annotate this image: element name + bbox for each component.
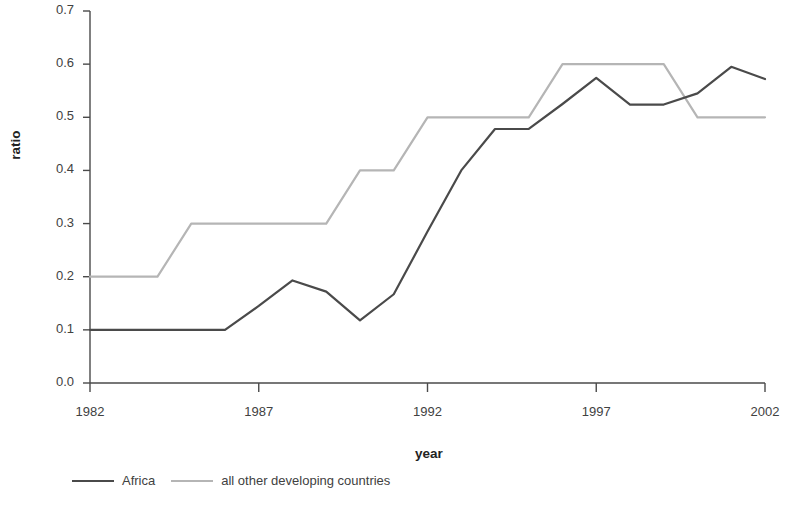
y-axis-tick-label: 0.7 <box>18 2 74 17</box>
y-axis-tick-label: 0.5 <box>18 108 74 123</box>
x-axis-tick-label: 1992 <box>388 404 468 419</box>
legend-label: Africa <box>122 473 155 488</box>
x-axis-title: year <box>415 446 443 461</box>
x-axis-tick-label: 1982 <box>50 404 130 419</box>
chart-legend: Africaall other developing countries <box>72 473 406 488</box>
x-axis-tick-label: 1997 <box>556 404 636 419</box>
y-axis-tick-label: 0.2 <box>18 268 74 283</box>
legend-line-swatch <box>72 480 114 482</box>
x-axis-tick-label: 1987 <box>219 404 299 419</box>
y-axis-tick-label: 0.1 <box>18 321 74 336</box>
legend-label: all other developing countries <box>221 473 390 488</box>
y-axis-tick-label: 0.0 <box>18 374 74 389</box>
plot-area <box>0 0 792 513</box>
series-line-all-other-developing-countries <box>90 64 765 277</box>
y-axis-tick-label: 0.4 <box>18 161 74 176</box>
legend-line-swatch <box>171 480 213 482</box>
x-axis-tick-label: 2002 <box>725 404 792 419</box>
legend-item: Africa <box>72 473 155 488</box>
y-axis-tick-label: 0.3 <box>18 215 74 230</box>
legend-item: all other developing countries <box>171 473 390 488</box>
series-line-africa <box>90 67 765 330</box>
y-axis-tick-label: 0.6 <box>18 55 74 70</box>
line-chart: ratio year 0.00.10.20.30.40.50.60.7 1982… <box>0 0 792 513</box>
